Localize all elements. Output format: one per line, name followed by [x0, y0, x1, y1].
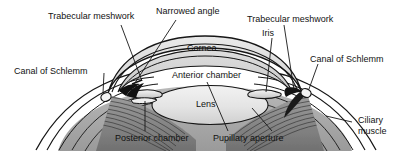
iris-right	[248, 90, 281, 99]
label-anterior-chamber: Anterior chamber	[172, 70, 241, 81]
label-pupillary-aperture: Pupillary aperture	[213, 133, 284, 144]
label-ciliary-muscle-line2: muscle	[358, 126, 387, 137]
leader-schlemm-left	[103, 73, 104, 93]
label-trabecular-meshwork-left: Trabecular meshwork	[48, 11, 134, 22]
label-narrowed-angle: Narrowed angle	[156, 6, 220, 17]
label-cornea: Cornea	[187, 43, 217, 54]
label-canal-of-schlemm-right: Canal of Schlemm	[310, 54, 384, 65]
eye-anatomy-figure: Trabecular meshwork Narrowed angle Trabe…	[0, 0, 411, 151]
label-ciliary-muscle-line1: Ciliary	[358, 115, 383, 126]
label-iris: Iris	[262, 28, 274, 39]
label-trabecular-meshwork-right: Trabecular meshwork	[247, 14, 333, 25]
label-posterior-chamber: Posterior chamber	[115, 133, 189, 144]
label-lens: Lens	[196, 99, 216, 110]
label-canal-of-schlemm-left: Canal of Schlemm	[14, 66, 88, 77]
leader-schlemm-right	[309, 64, 318, 89]
